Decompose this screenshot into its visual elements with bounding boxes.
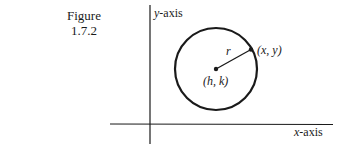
circle-point: [249, 47, 253, 51]
center-label: (h, k): [203, 74, 228, 88]
radius-line: [216, 50, 251, 70]
radius-label: r: [226, 44, 231, 58]
circle-diagram: y-axis x-axis r (x, y) (h, k): [0, 0, 342, 144]
y-axis-label: y-axis: [153, 6, 183, 20]
center-point: [214, 67, 218, 71]
x-axis-label: x-axis: [293, 125, 323, 139]
point-label: (x, y): [257, 43, 282, 57]
